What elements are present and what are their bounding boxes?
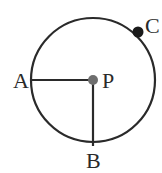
label-p: P: [102, 68, 114, 93]
label-b: B: [86, 148, 101, 173]
center-point-p: [88, 75, 98, 85]
label-c: C: [145, 13, 160, 38]
point-c: [133, 27, 144, 38]
label-a: A: [13, 68, 29, 93]
circle-diagram: A P B C: [0, 0, 162, 173]
